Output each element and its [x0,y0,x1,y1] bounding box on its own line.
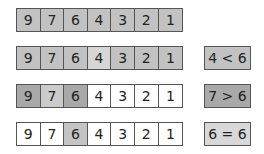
array-row-3: 9 7 6 4 3 2 1 [16,84,183,108]
array-cell: 1 [159,123,183,145]
array-cell: 3 [111,123,135,145]
array-cell: 6 [64,9,88,31]
array-cell: 2 [135,9,159,31]
array-cell-found: 6 [64,123,88,145]
comparison-box-4: 6 = 6 [204,122,251,146]
array-row-1: 9 7 6 4 3 2 1 [16,8,183,32]
array-cell: 4 [88,123,112,145]
array-cell: 9 [17,9,41,31]
array-cell: 7 [41,85,65,107]
array-row-4: 9 7 6 4 3 2 1 [16,122,183,146]
array-cell: 7 [41,47,65,69]
array-cell: 1 [159,9,183,31]
array-cell-highlight: 4 [88,47,112,69]
array-cell: 6 [64,85,88,107]
array-cell: 7 [41,123,65,145]
array-cell: 9 [17,85,41,107]
array-cell: 7 [41,9,65,31]
array-cell: 9 [17,123,41,145]
array-cell: 4 [88,9,112,31]
array-cell: 2 [135,47,159,69]
array-row-2: 9 7 6 4 3 2 1 [16,46,183,70]
comparison-box-3: 7 > 6 [204,84,251,108]
array-cell: 2 [135,85,159,107]
array-cell: 1 [159,85,183,107]
array-cell: 3 [111,9,135,31]
array-cell: 3 [111,85,135,107]
array-cell: 3 [111,47,135,69]
array-cell: 1 [159,47,183,69]
array-cell: 6 [64,47,88,69]
array-cell: 4 [88,85,112,107]
array-cell: 9 [17,47,41,69]
array-cell: 2 [135,123,159,145]
comparison-box-2: 4 < 6 [204,46,251,70]
